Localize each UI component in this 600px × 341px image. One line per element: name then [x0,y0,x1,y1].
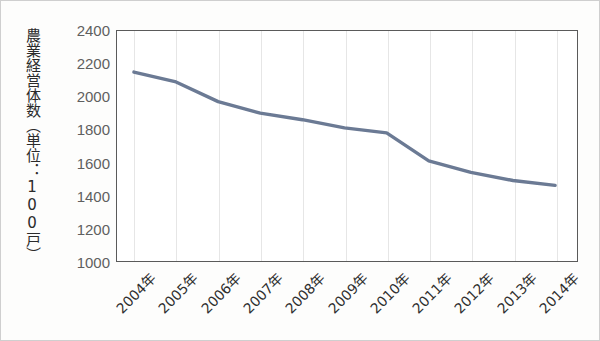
x-axis-tick-2010年: 2010年 [365,268,414,317]
plot-area [116,30,578,262]
x-axis-tick-labels: 2004年2005年2006年2007年2008年2009年2010年2011年… [116,262,578,341]
x-axis-tick-2014年: 2014年 [534,268,583,317]
x-axis-tick-2004年: 2004年 [111,268,160,317]
y-axis-tick-1800: 1800 [52,121,110,138]
x-axis-tick-2008年: 2008年 [280,268,329,317]
x-axis-tick-2013年: 2013年 [492,268,541,317]
x-axis-tick-2012年: 2012年 [449,268,498,317]
y-axis-tick-2200: 2200 [52,55,110,72]
y-axis-tick-1200: 1200 [52,220,110,237]
chart-page: 農業経営体数（単位：100戸） 240022002000180016001400… [0,0,600,341]
y-axis-tick-1000: 1000 [52,254,110,271]
x-axis-tick-2006年: 2006年 [195,268,244,317]
x-axis-tick-2007年: 2007年 [238,268,287,317]
y-axis-tick-1600: 1600 [52,154,110,171]
series-line-0 [134,72,555,185]
y-axis-tick-labels: 24002200200018001600140012001000 [48,0,110,341]
x-axis-tick-2011年: 2011年 [407,268,456,317]
plot-inner [117,31,577,261]
line-series [117,31,577,261]
y-axis-title: 農業経営体数（単位：100戸） [6,28,40,268]
x-axis-tick-2005年: 2005年 [153,268,202,317]
y-axis-tick-1400: 1400 [52,187,110,204]
y-axis-tick-2000: 2000 [52,88,110,105]
y-axis-tick-2400: 2400 [52,22,110,39]
x-axis-tick-2009年: 2009年 [322,268,371,317]
